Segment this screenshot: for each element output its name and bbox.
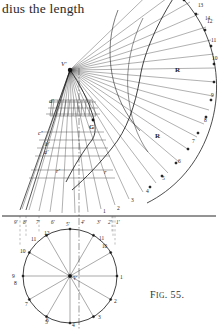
label-b-prime: b' <box>45 141 50 147</box>
plan-right-label-11: 11 <box>99 235 104 241</box>
arc-label-1: 1 <box>103 208 106 214</box>
ground-label-6p: 6' <box>51 219 56 225</box>
arc-label-6: 6 <box>178 158 181 164</box>
element-ray-fan <box>22 0 215 213</box>
ground-label-5p: 5' <box>66 221 71 227</box>
ground-label-4p: 4' <box>81 219 86 225</box>
plan-label-8: 8 <box>14 280 17 286</box>
plan-label-12: 12 <box>44 230 50 236</box>
arc-label-3: 3 <box>131 197 134 203</box>
figure-page: dius the length <box>0 0 218 329</box>
figure-labels: V' G R R d' c' b' a' r' r 12 11 10 9 8 7… <box>12 2 218 328</box>
secondary-curve <box>128 18 148 152</box>
figure-caption: FIG. 55. <box>150 289 184 300</box>
ground-label-9p: 9' <box>14 219 19 225</box>
arc-label-10: 10 <box>212 55 218 61</box>
label-d-prime: d' <box>49 97 54 104</box>
point-G-dot <box>92 119 95 122</box>
arc-label-8: 8 <box>204 117 207 123</box>
ground-label-3p: 3' <box>97 219 102 225</box>
ground-label-7p: 7' <box>36 219 41 225</box>
arc-label-9: 9 <box>211 92 214 98</box>
label-curve-r-upper: R <box>175 66 181 74</box>
plan-label-6: 6 <box>46 317 49 323</box>
arc-top-label-14: 14 <box>205 15 211 21</box>
label-r-prime: r' <box>56 167 61 174</box>
curve-R <box>72 0 176 190</box>
plan-label-3: 3 <box>98 314 101 320</box>
arc-division-ticks <box>149 0 215 188</box>
arc-label-7: 7 <box>192 138 195 144</box>
label-r-inner: r <box>104 168 107 175</box>
arc-label-2: 2 <box>117 205 120 211</box>
figure-caption-suffix: . 55. <box>165 289 185 300</box>
plan-label-11: 11 <box>31 236 37 242</box>
arc-top-label-13: 13 <box>198 2 204 8</box>
arc-label-5: 5 <box>162 175 165 181</box>
ground-label-1p: 1' <box>116 219 121 225</box>
label-curve-r-lower: R <box>155 132 161 140</box>
apex-point <box>68 68 72 72</box>
label-point-g: G <box>89 123 94 130</box>
arc-label-11: 11 <box>211 37 217 43</box>
label-c-prime: c' <box>38 129 43 136</box>
figure-caption-smallcaps: IG <box>156 291 165 300</box>
plan-label-1: 1 <box>120 274 123 280</box>
plan-label-10: 10 <box>20 248 26 254</box>
inner-construction-curve <box>110 10 140 131</box>
plan-right-label-10: 10 <box>102 243 108 249</box>
plan-label-2: 2 <box>114 298 117 304</box>
label-a-prime: a' <box>44 149 49 155</box>
figure-55-drawing: V' G R R d' c' b' a' r' r 12 11 10 9 8 7… <box>0 0 218 329</box>
plan-label-4: 4 <box>72 322 75 328</box>
arc-label-4: 4 <box>146 188 149 194</box>
plan-label-7: 7 <box>25 301 28 307</box>
label-apex: V' <box>61 60 67 67</box>
ground-label-8p: 8' <box>23 219 28 225</box>
plan-label-9: 9 <box>12 273 15 279</box>
